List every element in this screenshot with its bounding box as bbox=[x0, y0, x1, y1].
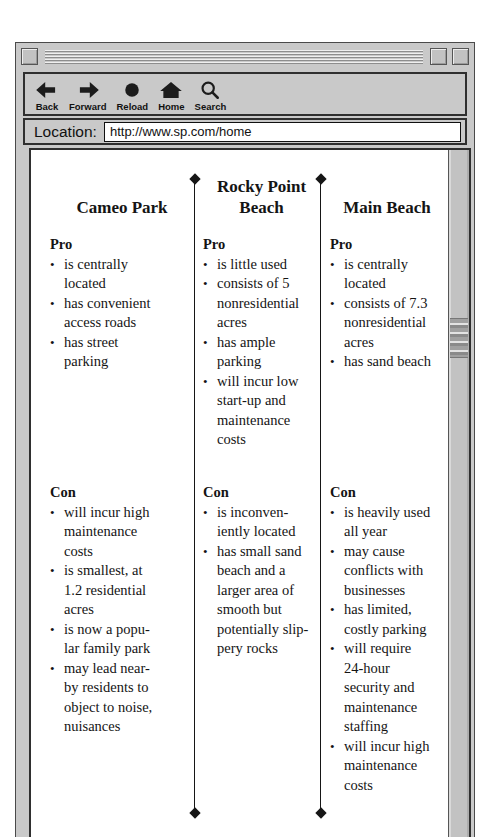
column-title: Main Beach bbox=[330, 174, 444, 218]
list-item: • has ample parking bbox=[203, 333, 320, 372]
browser-toolbar: Back Forward Reload Home bbox=[23, 72, 467, 116]
bullet-marker: • bbox=[203, 372, 217, 450]
bullet-marker: • bbox=[330, 294, 344, 353]
cameo-park-pro-section: Pro • is centrally located • has conveni… bbox=[50, 235, 194, 483]
list-item: • is little used bbox=[203, 255, 320, 275]
list-item: • has limited, costly parking bbox=[330, 600, 444, 639]
browser-window: Back Forward Reload Home bbox=[15, 42, 475, 837]
bullet-marker: • bbox=[50, 503, 64, 562]
list-item: • has sand beach bbox=[330, 352, 444, 372]
list-item: • has convenient access roads bbox=[50, 294, 194, 333]
title-bar bbox=[16, 43, 474, 69]
bullet-marker: • bbox=[203, 333, 217, 372]
column-rocky-point-beach: Rocky Point Beach Pro • is little used •… bbox=[194, 174, 320, 818]
vertical-scrollbar[interactable] bbox=[448, 150, 469, 837]
bullet-marker: • bbox=[330, 737, 344, 796]
list-item: • will incur high maintenance costs bbox=[330, 737, 444, 796]
column-title: Cameo Park bbox=[50, 174, 194, 218]
rocky-point-pro-section: Pro • is little used • consists of 5 non… bbox=[203, 235, 320, 483]
list-item: • is centrally located bbox=[330, 255, 444, 294]
search-icon bbox=[200, 80, 220, 100]
bullet-marker: • bbox=[330, 542, 344, 601]
bullet-marker: • bbox=[50, 620, 64, 659]
con-heading: Con bbox=[50, 483, 194, 503]
bullet-marker: • bbox=[330, 503, 344, 542]
location-label: Location: bbox=[34, 123, 97, 141]
bullet-marker: • bbox=[203, 542, 217, 659]
column-divider-rule bbox=[194, 178, 195, 814]
bullet-marker: • bbox=[330, 600, 344, 639]
column-main-beach: Main Beach Pro • is centrally located • … bbox=[320, 174, 448, 818]
list-item: • consists of 5 nonresidential acres bbox=[203, 274, 320, 333]
collapse-box[interactable] bbox=[452, 48, 469, 65]
list-item: • is centrally located bbox=[50, 255, 194, 294]
column-cameo-park: Cameo Park Pro • is centrally located • … bbox=[31, 174, 194, 818]
bullet-marker: • bbox=[50, 659, 64, 737]
scrollbar-thumb[interactable] bbox=[450, 318, 468, 358]
bullet-marker: • bbox=[330, 352, 344, 372]
list-item: • has street parking bbox=[50, 333, 194, 372]
rocky-point-con-section: Con • is inconven- iently located • has … bbox=[203, 483, 320, 659]
url-input[interactable] bbox=[104, 122, 461, 142]
forward-arrow-icon bbox=[76, 80, 100, 100]
reload-button[interactable]: Reload bbox=[116, 80, 148, 112]
back-button[interactable]: Back bbox=[35, 80, 59, 112]
column-title: Rocky Point Beach bbox=[203, 174, 320, 218]
list-item: • has small sand beach and a larger area… bbox=[203, 542, 320, 659]
close-box[interactable] bbox=[21, 48, 38, 65]
back-button-label: Back bbox=[36, 101, 59, 112]
main-beach-con-section: Con • is heavily used all year • may cau… bbox=[330, 483, 444, 795]
web-page: Cameo Park Pro • is centrally located • … bbox=[31, 150, 448, 837]
back-arrow-icon bbox=[35, 80, 59, 100]
pro-heading: Pro bbox=[203, 235, 320, 255]
bullet-marker: • bbox=[203, 274, 217, 333]
bullet-marker: • bbox=[50, 333, 64, 372]
main-beach-pro-section: Pro • is centrally located • consists of… bbox=[330, 235, 444, 483]
forward-button-label: Forward bbox=[69, 101, 106, 112]
con-heading: Con bbox=[203, 483, 320, 503]
bullet-marker: • bbox=[330, 639, 344, 737]
title-bar-stripes[interactable] bbox=[45, 49, 423, 64]
pro-heading: Pro bbox=[50, 235, 194, 255]
zoom-box[interactable] bbox=[430, 48, 447, 65]
location-bar: Location: bbox=[23, 118, 467, 145]
home-button-label: Home bbox=[158, 101, 184, 112]
list-item: • is now a popu- lar family park bbox=[50, 620, 194, 659]
bullet-marker: • bbox=[50, 294, 64, 333]
list-item: • will incur high maintenance costs bbox=[50, 503, 194, 562]
bullet-marker: • bbox=[50, 561, 64, 620]
reload-button-label: Reload bbox=[116, 101, 148, 112]
pro-heading: Pro bbox=[330, 235, 444, 255]
con-heading: Con bbox=[330, 483, 444, 503]
home-button[interactable]: Home bbox=[158, 80, 184, 112]
list-item: • is inconven- iently located bbox=[203, 503, 320, 542]
bullet-marker: • bbox=[203, 255, 217, 275]
column-divider-rule bbox=[320, 178, 321, 814]
list-item: • will require 24-hour security and main… bbox=[330, 639, 444, 737]
home-icon bbox=[159, 80, 183, 100]
reload-icon bbox=[123, 80, 141, 100]
comparison-table: Cameo Park Pro • is centrally located • … bbox=[31, 174, 448, 818]
search-button[interactable]: Search bbox=[195, 80, 227, 112]
bullet-marker: • bbox=[330, 255, 344, 294]
content-area: Cameo Park Pro • is centrally located • … bbox=[29, 148, 471, 837]
bullet-marker: • bbox=[50, 255, 64, 294]
forward-button[interactable]: Forward bbox=[69, 80, 106, 112]
bullet-marker: • bbox=[203, 503, 217, 542]
cameo-park-con-section: Con • will incur high maintenance costs … bbox=[50, 483, 194, 737]
list-item: • is smallest, at 1.2 residential acres bbox=[50, 561, 194, 620]
list-item: • consists of 7.3 nonresidential acres bbox=[330, 294, 444, 353]
list-item: • is heavily used all year bbox=[330, 503, 444, 542]
list-item: • will incur low start-up and maintenanc… bbox=[203, 372, 320, 450]
search-button-label: Search bbox=[195, 101, 227, 112]
list-item: • may lead near- by residents to object … bbox=[50, 659, 194, 737]
list-item: • may cause conflicts with businesses bbox=[330, 542, 444, 601]
